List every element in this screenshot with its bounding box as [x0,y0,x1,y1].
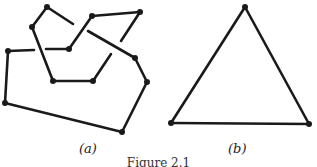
edge-v7-v8 [135,58,147,82]
vertex-v4 [66,46,72,52]
vertex-v7 [132,55,138,61]
panel-b-vertices [168,4,312,127]
panel-b-triangle [171,7,309,124]
edge-t1-t3 [245,7,309,124]
figure-caption: Figure 2.1 [0,156,317,167]
vertex-t2 [168,120,174,126]
vertex-v8 [144,79,150,85]
vertex-t3 [306,121,312,127]
vertex-v3 [5,48,11,54]
edge-v9-v10 [5,103,122,132]
edge-v3-gap [8,50,34,51]
edge-v8-v9 [122,82,147,132]
vertex-v10 [2,100,8,106]
vertex-v5 [89,13,95,19]
vertex-v2 [29,24,35,30]
vertex-v1 [44,4,50,10]
vertex-v6 [137,9,143,15]
edge-t1-t2 [171,7,245,123]
edge-t2-t3 [171,123,309,124]
vertex-v11 [50,78,56,84]
edge-v2-v11 [32,27,53,81]
panel-a-curve [5,7,147,132]
panel-b-label: (b) [228,141,246,156]
edge-v1-v2 [32,7,47,27]
panel-a-vertices [2,4,150,135]
vertex-v12 [90,78,96,84]
vertex-v9 [119,129,125,135]
edge-v5-v6 [92,12,140,16]
edge-v12-gap [93,54,111,81]
edge-v6-gap [121,12,140,41]
figure-canvas [0,0,317,167]
vertex-t1 [242,4,248,10]
panel-a-label: (a) [79,141,97,156]
edge-v1-gap [47,7,73,24]
edge-v10-v3 [5,51,8,103]
